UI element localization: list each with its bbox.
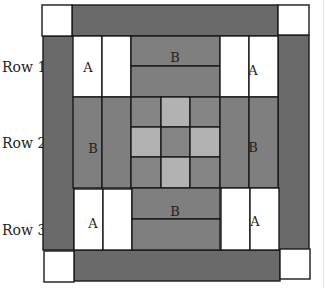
nine-patch-center [131,97,220,188]
nine-patch-square-dark [131,157,161,188]
b-patch-row3-center [132,188,220,250]
nine-patch-square-light [161,97,190,127]
a-patch-half [221,188,250,250]
row-3 [74,188,279,250]
row-label-3: Row 3 [2,222,46,238]
nine-patch-square-dark [190,97,220,127]
a-patch-half [220,36,249,97]
corner-square-bottom-left [44,251,74,282]
b-patch-half [102,97,131,188]
patch-label-a: A [249,214,260,229]
row-label-1: Row 1 [2,59,46,75]
corner-square-top-left [42,5,72,36]
nine-patch-square-light [190,127,220,157]
patch-label-b: B [170,50,180,65]
b-patch-half [132,219,220,250]
patch-label-a: A [247,63,258,78]
a-patch-half [103,189,132,250]
b-patch-row2-left [73,97,131,188]
patch-label-a: A [87,216,98,231]
a-patch-row3-left [74,189,132,250]
patch-label-b: B [170,204,180,219]
nine-patch-square-light [161,157,190,188]
b-patch-row1-center [131,36,220,97]
patch-label-b: B [248,140,258,155]
a-patch-half [102,36,131,97]
row-label-2: Row 2 [2,135,46,151]
border-right [278,35,309,250]
nine-patch-square-dark [161,127,190,157]
border-top [72,5,278,36]
nine-patch-square-dark [190,157,220,188]
patch-label-b: B [88,141,98,156]
row-1 [73,36,278,97]
border-left [43,36,74,250]
corner-square-bottom-right [280,249,310,279]
border-bottom [74,250,280,281]
quilt-diagram: Row 1 Row 2 Row 3 [0,0,326,288]
corner-square-top-right [278,5,309,35]
patch-label-a: A [82,60,93,75]
a-patch-row1-left [73,36,131,97]
b-patch-half [220,97,249,188]
nine-patch-square-dark [131,97,161,127]
b-patch-half [131,66,220,97]
nine-patch-square-light [131,127,161,157]
